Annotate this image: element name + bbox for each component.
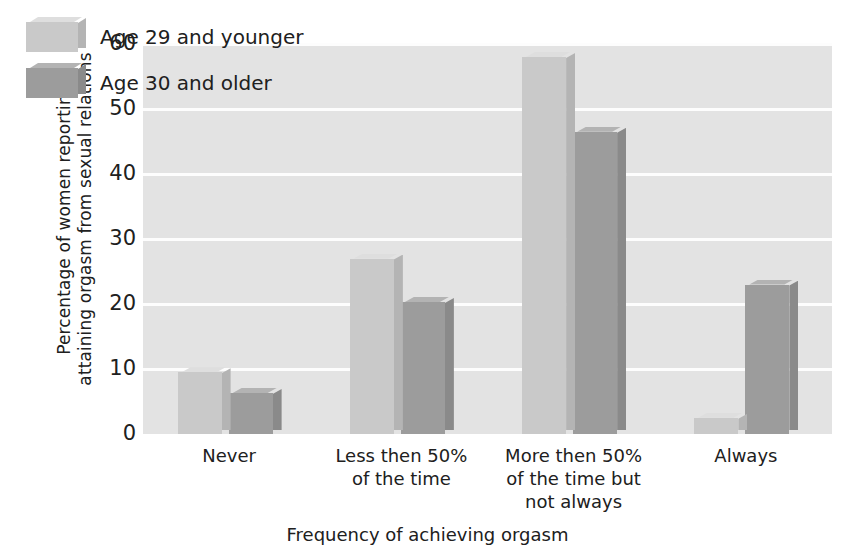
legend-swatch-icon	[26, 22, 78, 52]
x-axis-title: Frequency of achieving orgasm	[0, 524, 855, 546]
bar	[350, 259, 394, 435]
y-axis-tick-label: 0	[90, 423, 136, 444]
legend-item: Age 30 and older	[26, 60, 456, 106]
legend-item-label: Age 30 and older	[100, 72, 272, 94]
bar	[229, 393, 273, 434]
legend-swatch-icon	[26, 68, 78, 98]
bar	[522, 57, 566, 434]
legend: Age 29 and younger Age 30 and older	[26, 14, 456, 106]
bar	[745, 285, 789, 435]
bar	[573, 132, 617, 434]
y-axis-tick-label: 10	[90, 358, 136, 379]
bar-chart: Percentage of women reporting attaining …	[0, 0, 855, 555]
bar	[178, 372, 222, 434]
y-axis-tick-label: 40	[90, 163, 136, 184]
legend-item: Age 29 and younger	[26, 14, 456, 60]
legend-item-label: Age 29 and younger	[100, 26, 303, 48]
bar-group	[660, 44, 832, 434]
bar-group	[488, 44, 660, 434]
bar	[694, 418, 738, 434]
bar	[401, 302, 445, 434]
y-axis-tick-label: 20	[90, 293, 136, 314]
x-axis-tick-label: Always	[640, 444, 852, 467]
y-axis-tick-label: 30	[90, 228, 136, 249]
